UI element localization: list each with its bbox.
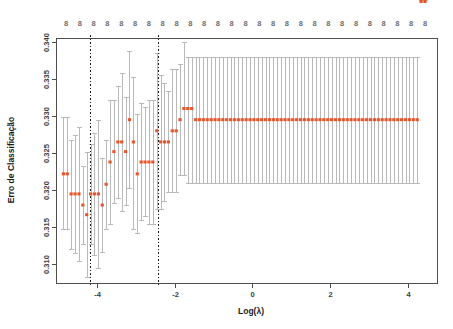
data-point: [175, 129, 178, 132]
y-tick-label: 0.315: [42, 218, 51, 237]
data-point: [147, 160, 150, 163]
top-axis-label: 8: [423, 19, 427, 28]
data-point: [369, 118, 372, 121]
y-tick-label: 0.310: [42, 255, 51, 274]
data-point: [268, 118, 271, 121]
top-axis-label: 8: [368, 19, 372, 28]
data-point: [361, 118, 364, 121]
top-axis-label: 8: [381, 19, 385, 28]
data-point: [349, 118, 352, 121]
data-point: [396, 118, 399, 121]
data-point: [89, 192, 92, 195]
data-point: [408, 118, 411, 121]
top-axis-label: 8: [271, 19, 275, 28]
data-point: [132, 140, 135, 143]
chart-canvas: 0.3100.3150.3200.3250.3300.3350.340 -4-2…: [0, 0, 453, 329]
top-axis-label: 8: [216, 19, 220, 28]
x-tick-label: -2: [172, 290, 179, 299]
top-axis-label: 8: [92, 19, 96, 28]
data-point: [404, 118, 407, 121]
top-axis-labels: 888888888888888888888888888: [64, 19, 427, 28]
data-point: [210, 118, 213, 121]
data-point: [124, 150, 127, 153]
data-point: [299, 118, 302, 121]
y-tick-label: 0.330: [42, 107, 51, 126]
data-point: [206, 118, 209, 121]
data-point: [318, 118, 321, 121]
data-point: [334, 118, 337, 121]
top-axis-label: 8: [188, 19, 192, 28]
data-point: [198, 118, 201, 121]
y-tick-label: 0.325: [42, 144, 51, 163]
error-bars-layer: [61, 0, 428, 278]
x-tick-label: 0: [250, 290, 254, 299]
data-point: [120, 140, 123, 143]
data-point: [116, 140, 119, 143]
data-point: [101, 204, 104, 207]
top-axis-label: 8: [105, 19, 109, 28]
data-point: [314, 118, 317, 121]
data-point: [213, 118, 216, 121]
data-point: [322, 118, 325, 121]
data-point: [136, 172, 139, 175]
top-axis-label: 8: [202, 19, 206, 28]
data-point: [342, 118, 345, 121]
data-point: [295, 118, 298, 121]
data-point: [330, 118, 333, 121]
data-point: [159, 140, 162, 143]
data-point: [291, 118, 294, 121]
top-axis-label: 8: [340, 19, 344, 28]
x-tick-label: 4: [406, 290, 411, 299]
data-point: [93, 192, 96, 195]
top-axis-label: 8: [243, 19, 247, 28]
top-axis-label: 8: [326, 19, 330, 28]
x-axis-title: Log(λ): [238, 306, 264, 316]
data-point: [388, 118, 391, 121]
data-point: [73, 192, 76, 195]
data-point: [373, 118, 376, 121]
data-point: [384, 118, 387, 121]
data-point: [245, 118, 248, 121]
data-point: [264, 118, 267, 121]
data-point: [241, 118, 244, 121]
top-axis-label: 8: [230, 19, 234, 28]
data-point: [423, 0, 426, 3]
top-axis-label: 8: [147, 19, 151, 28]
data-point: [202, 118, 205, 121]
top-axis-label: 8: [354, 19, 358, 28]
data-point: [128, 118, 131, 121]
data-point: [217, 118, 220, 121]
top-axis-label: 8: [119, 19, 123, 28]
data-point: [237, 118, 240, 121]
data-point: [283, 118, 286, 121]
data-point: [190, 107, 193, 110]
y-tick-label: 0.320: [42, 181, 51, 200]
data-point: [252, 118, 255, 121]
data-point: [163, 140, 166, 143]
data-point: [186, 107, 189, 110]
data-point: [412, 118, 415, 121]
data-point: [280, 118, 283, 121]
data-point: [248, 118, 251, 121]
data-point: [85, 213, 88, 216]
data-point: [194, 118, 197, 121]
data-point: [377, 118, 380, 121]
data-point: [303, 118, 306, 121]
x-tick-label: 2: [328, 290, 332, 299]
top-axis-label: 8: [285, 19, 289, 28]
data-point: [276, 118, 279, 121]
top-axis-label: 8: [409, 19, 413, 28]
cv-error-plot-figure: 0.3100.3150.3200.3250.3300.3350.340 -4-2…: [0, 0, 453, 329]
data-point: [272, 118, 275, 121]
data-point: [105, 183, 108, 186]
data-point: [66, 172, 69, 175]
data-point: [62, 172, 65, 175]
data-point: [229, 118, 232, 121]
data-point: [233, 118, 236, 121]
data-point: [260, 118, 263, 121]
data-point: [178, 118, 181, 121]
x-axis-ticks: -4-2024: [94, 284, 411, 300]
data-point: [151, 160, 154, 163]
data-point: [97, 192, 100, 195]
data-point: [140, 160, 143, 163]
